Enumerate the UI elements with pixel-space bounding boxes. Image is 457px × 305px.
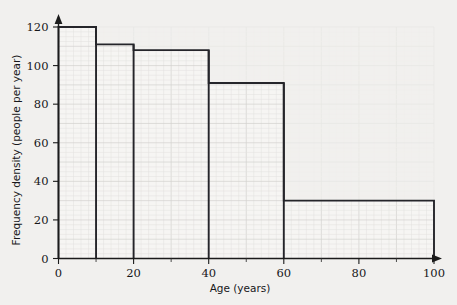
x-tick-label: 40 [201, 266, 216, 280]
y-tick-label: 0 [41, 252, 48, 266]
x-axis-tick-labels: 020406080100 [55, 266, 445, 280]
x-tick-label: 80 [352, 266, 367, 280]
x-tick-label: 20 [126, 266, 141, 280]
y-tick-label: 80 [34, 97, 49, 111]
y-axis-arrow-icon [55, 14, 63, 24]
x-axis-ticks [59, 259, 435, 265]
y-axis-tick-labels: 020406080100120 [27, 20, 49, 266]
y-tick-label: 100 [27, 59, 49, 73]
y-tick-label: 20 [34, 213, 49, 227]
histogram-chart: 020406080100 020406080100120 Age (years)… [0, 0, 457, 305]
x-tick-label: 60 [276, 266, 291, 280]
x-tick-label: 0 [55, 266, 62, 280]
bar-background [96, 44, 134, 258]
x-tick-label: 100 [423, 266, 445, 280]
y-tick-label: 120 [27, 20, 49, 34]
x-axis-title: Age (years) [210, 282, 271, 294]
y-tick-label: 60 [34, 136, 49, 150]
histogram-svg: 020406080100 020406080100120 Age (years)… [0, 0, 457, 305]
y-axis-title: Frequency density (people per year) [10, 55, 22, 246]
y-tick-label: 40 [34, 174, 49, 188]
